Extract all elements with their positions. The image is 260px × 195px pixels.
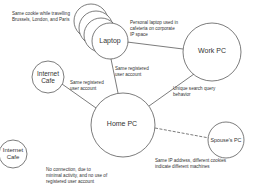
- internet-cafe-2-line2: Cafe: [3, 154, 23, 161]
- annotation-line: user account: [70, 86, 104, 92]
- annotation-laptop-work: Personal laptop used in cafeteria on cor…: [130, 20, 178, 38]
- annotation-line: user account: [115, 72, 149, 78]
- annotation-line: IP space: [130, 32, 178, 38]
- annotation-cafe1-home: Same registered user account: [70, 80, 104, 92]
- internet-cafe-1-label: Internet Cafe: [37, 70, 59, 85]
- spouses-pc-label: Spouse's PC: [211, 137, 242, 143]
- laptop-label: Laptop: [99, 37, 120, 45]
- annotation-laptop-travel: Same cookie while travelling Brussels, L…: [12, 11, 70, 23]
- home-pc-label: Home PC: [107, 120, 137, 128]
- annotation-laptop-home: Same registered user account: [115, 66, 149, 78]
- annotation-spouse-home: Same IP address, different cookies indic…: [155, 158, 226, 170]
- annotation-work-home: Unique search query behavior: [173, 86, 215, 98]
- internet-cafe-1-line2: Cafe: [37, 77, 59, 84]
- internet-cafe-2-line1: Internet: [3, 147, 23, 154]
- annotation-line: indicate different machines: [155, 164, 226, 170]
- annotation-line: Brussels, London, and Paris: [12, 17, 70, 23]
- internet-cafe-1-line1: Internet: [37, 70, 59, 77]
- work-pc-label: Work PC: [198, 47, 226, 55]
- edge-laptop-work: [127, 42, 183, 49]
- internet-cafe-2-label: Internet Cafe: [3, 147, 23, 161]
- annotation-line: registered user account: [46, 179, 107, 185]
- annotation-line: behavior: [173, 92, 215, 98]
- edge-home-spouse: [155, 128, 209, 138]
- annotation-cafe2-home: No connection, due to minimal activity, …: [46, 167, 107, 185]
